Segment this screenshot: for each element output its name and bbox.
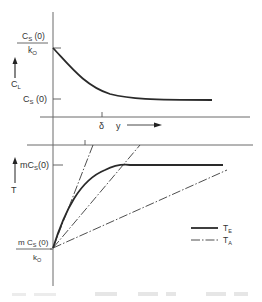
up-arrow-icon bbox=[13, 157, 18, 164]
bottom-panel: T mCS(0) m CS (0) kO TE bbox=[11, 140, 253, 263]
y-axis-label: y bbox=[116, 121, 121, 131]
svg-text:kO: kO bbox=[28, 45, 37, 56]
label-cs0: CS (0) bbox=[23, 94, 47, 105]
legend-label-ta: TA bbox=[223, 235, 232, 246]
legend: TE TA bbox=[191, 223, 232, 246]
te-curve bbox=[53, 165, 223, 248]
label-mcs0: mCS(0) bbox=[20, 160, 49, 171]
label-cs0-over-k0: CS (0) kO bbox=[17, 31, 48, 56]
label-mcs0-over-k0: m CS (0) kO bbox=[16, 238, 53, 263]
bleed-through-text bbox=[12, 292, 248, 296]
cl-axis-label: CL bbox=[11, 57, 22, 90]
svg-text:CS (0): CS (0) bbox=[22, 31, 45, 42]
t-axis-label: T bbox=[11, 157, 18, 195]
svg-text:T: T bbox=[11, 185, 17, 195]
up-arrow-icon bbox=[13, 57, 18, 64]
right-arrow-icon bbox=[127, 123, 162, 128]
ta-line-mid bbox=[53, 145, 140, 248]
svg-text:CL: CL bbox=[11, 79, 22, 90]
diagram-canvas: CS (0) kO CL CS (0) δ y bbox=[0, 0, 262, 302]
top-panel: CS (0) kO CL CS (0) δ y bbox=[11, 31, 250, 131]
svg-text:m CS (0): m CS (0) bbox=[18, 238, 49, 248]
cl-profile-curve bbox=[53, 48, 212, 100]
delta-label: δ bbox=[99, 121, 104, 131]
ta-line-shallow bbox=[53, 170, 227, 248]
legend-label-te: TE bbox=[223, 223, 232, 234]
svg-text:kO: kO bbox=[33, 253, 42, 263]
